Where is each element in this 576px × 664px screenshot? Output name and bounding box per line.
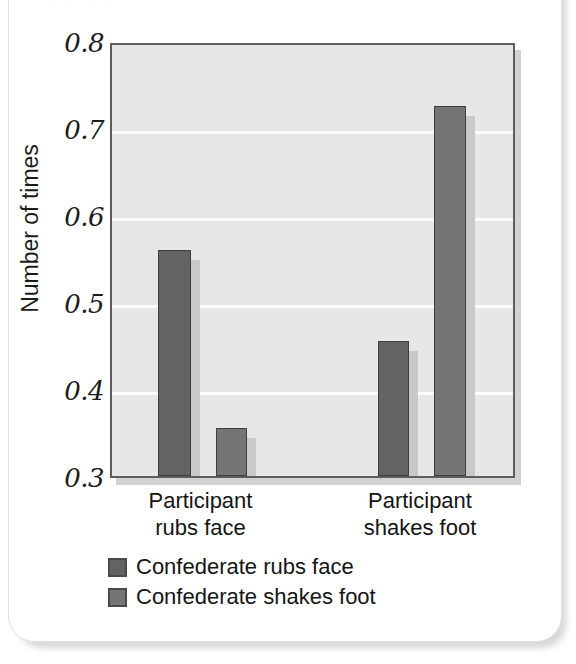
bar-shadow bbox=[466, 116, 475, 478]
x-axis-label-line: Participant bbox=[310, 487, 530, 514]
x-axis-category-label: Participantrubs face bbox=[91, 487, 311, 541]
legend-swatch-icon bbox=[108, 588, 127, 607]
bar bbox=[216, 428, 247, 476]
bar bbox=[434, 106, 466, 476]
legend-label: Confederate shakes foot bbox=[136, 584, 376, 610]
bar bbox=[378, 341, 409, 476]
y-axis-title: Number of times bbox=[17, 129, 44, 329]
x-axis-labels: Participantrubs faceParticipantshakes fo… bbox=[110, 487, 515, 547]
x-axis-label-line: rubs face bbox=[91, 514, 311, 541]
legend-item: Confederate shakes foot bbox=[108, 582, 468, 612]
bar-shadow bbox=[409, 351, 418, 478]
x-axis-label-line: shakes foot bbox=[310, 514, 530, 541]
bar-chart-figure: 0.80.70.60.50.40.3 Number of times Parti… bbox=[0, 0, 576, 664]
bar-shadow bbox=[191, 260, 200, 478]
chart-screenshot: · · · · 0.80.70.60.50.40.3 Number of tim… bbox=[0, 0, 576, 664]
y-axis-tick-label: 0.4 bbox=[8, 376, 104, 406]
plot-area bbox=[110, 43, 515, 478]
bar bbox=[158, 250, 191, 476]
legend-swatch-icon bbox=[108, 558, 127, 577]
legend-label: Confederate rubs face bbox=[136, 554, 354, 580]
chart-legend: Confederate rubs faceConfederate shakes … bbox=[108, 552, 468, 612]
x-axis-category-label: Participantshakes foot bbox=[310, 487, 530, 541]
legend-item: Confederate rubs face bbox=[108, 552, 468, 582]
bar-shadow bbox=[247, 438, 256, 478]
y-axis-tick-label: 0.8 bbox=[8, 28, 104, 58]
x-axis-label-line: Participant bbox=[91, 487, 311, 514]
